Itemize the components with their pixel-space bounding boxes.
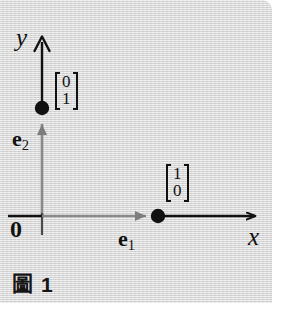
- basis-label-e1: e1: [118, 228, 135, 253]
- column-vector-e2: 0 1: [55, 72, 78, 109]
- point-e1: [151, 209, 165, 223]
- basis-label-e2: e2: [12, 128, 29, 153]
- column-vector-e1: 1 0: [166, 164, 189, 201]
- point-e2: [35, 101, 49, 115]
- column-vector-e2-bottom: 1: [62, 90, 71, 107]
- basis-label-e1-subscript: 1: [128, 237, 135, 253]
- basis-label-e1-text: e: [118, 226, 128, 251]
- column-vector-e1-bottom: 0: [173, 182, 182, 199]
- coordinate-plane-svg: [0, 0, 284, 316]
- figure-container: y x 0 e2 e1 0 1 1 0 圖 1: [0, 0, 284, 316]
- caption-symbol: 圖: [12, 274, 33, 295]
- y-axis-label: y: [16, 25, 27, 50]
- origin-label: 0: [10, 217, 22, 241]
- column-vector-e1-top: 1: [173, 165, 182, 182]
- basis-label-e2-text: e: [12, 126, 22, 151]
- figure-caption: 圖 1: [12, 274, 53, 295]
- column-vector-e2-top: 0: [62, 73, 71, 90]
- basis-label-e2-subscript: 2: [22, 137, 29, 153]
- caption-number: 1: [41, 274, 53, 295]
- x-axis-label: x: [248, 224, 259, 249]
